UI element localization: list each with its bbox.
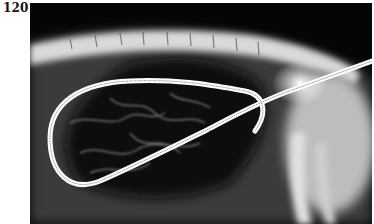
- xray-image: [30, 3, 372, 224]
- xray-illustration: [30, 3, 372, 224]
- figure-number: 120: [3, 1, 29, 15]
